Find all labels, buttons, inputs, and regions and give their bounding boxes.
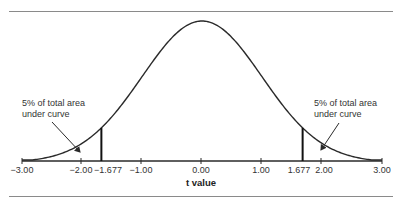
left-tail-annotation: 5% of total area under curve <box>22 98 85 120</box>
tick-label: −1.00 <box>130 165 153 175</box>
tick-label: −2.00 <box>70 165 93 175</box>
arrow-left <box>52 122 80 152</box>
tick-label: 0.00 <box>192 165 210 175</box>
right-annotation-line2: under curve <box>314 109 377 120</box>
x-axis-label: t value <box>186 177 216 188</box>
bottom-rule <box>9 196 393 197</box>
tick-label: 1.677 <box>288 165 311 175</box>
left-annotation-line2: under curve <box>22 109 85 120</box>
left-annotation-line1: 5% of total area <box>22 98 85 109</box>
tick-label: 3.00 <box>373 165 391 175</box>
tick-label: −1.677 <box>94 165 122 175</box>
tick-label: −3.00 <box>11 165 34 175</box>
tick-label: 1.00 <box>252 165 270 175</box>
arrow-right <box>321 123 339 150</box>
tick-label: 2.00 <box>315 165 333 175</box>
right-tail-annotation: 5% of total area under curve <box>314 98 377 120</box>
right-annotation-line1: 5% of total area <box>314 98 377 109</box>
